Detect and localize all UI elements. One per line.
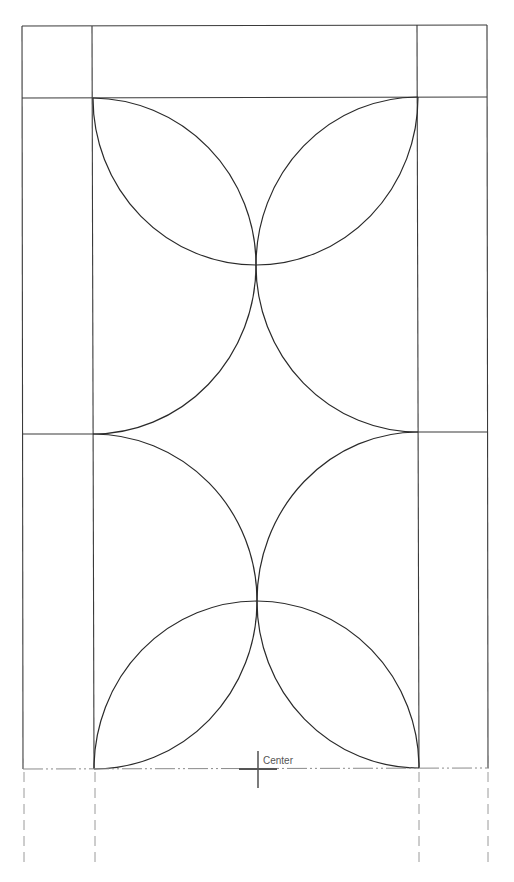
center-label: Center	[263, 755, 294, 766]
upper-right-petal-outer-arc	[256, 97, 418, 265]
upper-left-petal-outer-arc	[93, 98, 256, 265]
lower-right-petal-outer-arc	[257, 601, 419, 768]
lower-left-petal-outer-arc	[94, 601, 257, 769]
middle-upper-right-arc	[256, 265, 418, 432]
lower-right-petal-inner-arc	[257, 601, 419, 768]
middle-lower-right-arc	[257, 432, 418, 601]
right-border-line	[487, 25, 488, 768]
left-border-line	[22, 26, 23, 769]
right-inner-column-line	[417, 25, 419, 768]
lower-left-petal-inner-arc	[94, 601, 257, 769]
quilt-template-diagram: Center	[0, 0, 514, 882]
upper-left-petal-inner-arc	[93, 98, 256, 265]
left-inner-column-line	[92, 26, 94, 769]
upper-right-petal-inner-arc	[256, 97, 418, 265]
middle-lower-left-arc	[93, 434, 257, 601]
middle-upper-left-arc	[93, 265, 256, 434]
